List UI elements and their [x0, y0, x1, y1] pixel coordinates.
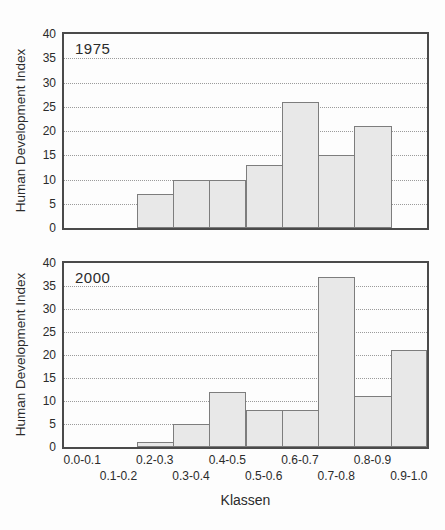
bar-1975-0.5-0.6	[246, 165, 283, 228]
x-tick-label-0.3-0.4: 0.3-0.4	[165, 469, 217, 483]
y-tick-label-2000-0: 0	[26, 440, 56, 454]
gridline-15	[64, 378, 427, 379]
y-tick-label-2000-10: 10	[26, 394, 56, 408]
panel-title-2000: 2000	[75, 269, 110, 286]
gridline-20	[64, 355, 427, 356]
gridline-30	[64, 309, 427, 310]
x-axis-title: Klassen	[62, 492, 429, 508]
y-tick-label-2000-25: 25	[26, 325, 56, 339]
y-tick-label-1975-40: 40	[26, 27, 56, 41]
bar-2000-0.8-0.9	[354, 396, 391, 447]
bar-2000-0.2-0.3	[137, 442, 174, 447]
bar-1975-0.3-0.4	[173, 180, 210, 229]
gridline-25	[64, 332, 427, 333]
y-tick-label-2000-35: 35	[26, 279, 56, 293]
bar-1975-0.4-0.5	[209, 180, 246, 229]
y-tick-label-1975-10: 10	[26, 173, 56, 187]
x-tick-label-0.7-0.8: 0.7-0.8	[310, 469, 362, 483]
x-tick-label-0.8-0.9: 0.8-0.9	[347, 453, 399, 467]
y-tick-label-2000-30: 30	[26, 302, 56, 316]
y-tick-label-2000-40: 40	[26, 256, 56, 270]
bar-1975-0.2-0.3	[137, 194, 174, 228]
bar-1975-0.6-0.7	[282, 102, 319, 228]
x-tick-label-0.5-0.6: 0.5-0.6	[238, 469, 290, 483]
bar-2000-0.4-0.5	[209, 392, 246, 447]
plot-area-2000: 2000	[62, 261, 429, 449]
y-tick-label-1975-20: 20	[26, 124, 56, 138]
bar-2000-0.9-1.0	[391, 350, 427, 447]
panel-title-1975: 1975	[75, 40, 110, 57]
x-tick-label-0.6-0.7: 0.6-0.7	[274, 453, 326, 467]
bar-2000-0.7-0.8	[318, 277, 355, 447]
gridline-35	[64, 58, 427, 59]
figure-hdi-histograms: Human Development Index 1975 Human Devel…	[0, 0, 445, 530]
y-tick-label-2000-15: 15	[26, 371, 56, 385]
y-tick-label-2000-20: 20	[26, 348, 56, 362]
y-tick-label-1975-25: 25	[26, 100, 56, 114]
bar-1975-0.8-0.9	[354, 126, 391, 228]
y-tick-label-1975-0: 0	[26, 221, 56, 235]
x-tick-label-0.1-0.2: 0.1-0.2	[92, 469, 144, 483]
bar-2000-0.6-0.7	[282, 410, 319, 447]
gridline-35	[64, 286, 427, 287]
bar-2000-0.3-0.4	[173, 424, 210, 447]
y-tick-label-1975-30: 30	[26, 76, 56, 90]
bar-2000-0.5-0.6	[246, 410, 283, 447]
y-tick-label-1975-15: 15	[26, 148, 56, 162]
y-tick-label-1975-35: 35	[26, 51, 56, 65]
x-tick-label-0.2-0.3: 0.2-0.3	[129, 453, 181, 467]
x-tick-label-0.0-0.1: 0.0-0.1	[56, 453, 108, 467]
gridline-30	[64, 83, 427, 84]
plot-area-1975: 1975	[62, 32, 429, 230]
x-tick-label-0.9-1.0: 0.9-1.0	[383, 469, 435, 483]
bar-1975-0.7-0.8	[318, 155, 355, 228]
y-tick-label-2000-5: 5	[26, 417, 56, 431]
y-tick-label-1975-5: 5	[26, 197, 56, 211]
x-tick-label-0.4-0.5: 0.4-0.5	[201, 453, 253, 467]
gridline-25	[64, 107, 427, 108]
